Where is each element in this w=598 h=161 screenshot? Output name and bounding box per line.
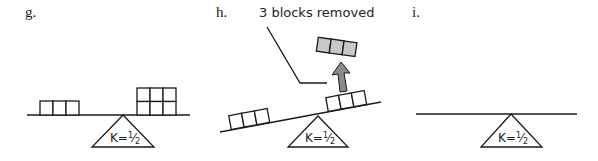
left-blocks-g xyxy=(40,101,79,115)
panel-i xyxy=(416,114,577,147)
panel-h xyxy=(220,27,381,147)
right-blocks-g xyxy=(137,88,176,115)
left-blocks-h xyxy=(229,109,270,130)
annotation-leader-line xyxy=(267,27,327,83)
up-arrow-icon xyxy=(332,62,350,92)
balance-diagram: K=1⁄2 K=1⁄2 K=1⁄2 xyxy=(0,0,598,161)
removed-blocks xyxy=(316,37,357,56)
panel-g xyxy=(27,88,190,147)
right-blocks-h xyxy=(326,91,367,112)
